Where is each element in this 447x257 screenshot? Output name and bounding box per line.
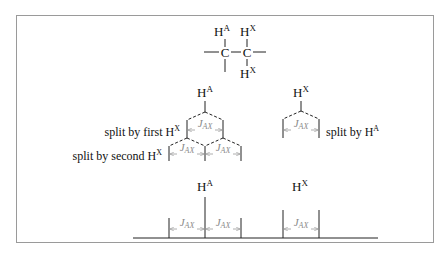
molecule-bonds — [204, 39, 266, 72]
nmr-splitting-diagram: HA HX C C HX HA — [0, 0, 447, 257]
tree-ha-nucleus-label: HA — [197, 84, 213, 100]
spectrum-j2-label: JAX — [216, 216, 232, 230]
molecule-carbon-right: C — [243, 45, 252, 60]
splitting-tree-hx: HX JAX split by HA — [283, 84, 379, 139]
spectrum-peak-hx-label: HX — [292, 178, 308, 194]
molecule-h-x-bottom: HX — [240, 65, 256, 81]
tree-ha-j3-label: JAX — [216, 141, 232, 155]
tree-ha-j2-label: JAX — [180, 141, 196, 155]
spectrum-j3-label: JAX — [294, 216, 310, 230]
molecule-h-x-top: HX — [240, 23, 256, 39]
tree-ha-j1-label: JAX — [198, 117, 214, 131]
split-by-ha-label: split by HA — [326, 124, 379, 139]
splitting-tree-ha: HA JAX JAX JAX spli — [73, 84, 241, 163]
molecule-h-a-top: HA — [214, 23, 230, 39]
tree-hx-j-label: JAX — [294, 117, 310, 131]
split-by-second-hx-label: split by second HX — [73, 148, 163, 163]
spectrum-j1-label: JAX — [180, 216, 196, 230]
spectrum: HA HX JAX JAX JAX — [133, 178, 378, 238]
molecule-carbon-left: C — [221, 45, 230, 60]
tree-hx-nucleus-label: HX — [293, 84, 309, 100]
split-by-first-hx-label: split by first HX — [105, 124, 181, 139]
molecule-structure: HA HX C C HX — [204, 23, 266, 81]
spectrum-peak-ha-label: HA — [197, 178, 213, 194]
